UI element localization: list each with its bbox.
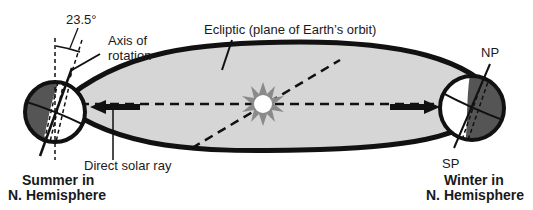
axis-of-rotation-label-1: Axis of xyxy=(108,33,147,48)
tilt-angle-arc xyxy=(56,46,80,52)
direct-solar-ray-label: Direct solar ray xyxy=(84,158,172,173)
axis-of-rotation-label-2: rotation xyxy=(108,48,151,63)
ecliptic-label: Ecliptic (plane of Earth’s orbit) xyxy=(204,22,376,37)
seasons-diagram: 23.5° Axis of rotation Ecliptic (plane o… xyxy=(0,0,533,210)
south-pole-label: SP xyxy=(442,156,459,171)
tilt-angle-label: 23.5° xyxy=(66,12,97,27)
earth-summer xyxy=(20,28,90,160)
winter-label-1: Winter in xyxy=(444,172,504,188)
summer-label-2: N. Hemisphere xyxy=(8,187,106,203)
winter-label-2: N. Hemisphere xyxy=(426,187,524,203)
north-pole-label: NP xyxy=(481,45,499,60)
summer-label-1: Summer in xyxy=(22,172,94,188)
